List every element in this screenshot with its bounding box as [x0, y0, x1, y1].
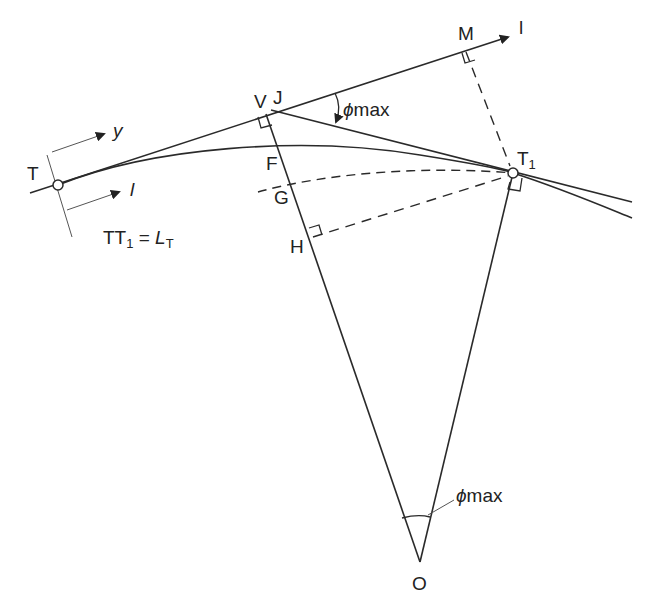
- label-m: M: [458, 23, 474, 44]
- dashed-circle-arc: [258, 170, 513, 192]
- phi-angle-arc-top: [335, 93, 339, 122]
- label-y: y: [111, 120, 124, 141]
- point-t: [53, 180, 63, 190]
- label-g: G: [274, 187, 289, 208]
- equation-tt1-equals-lt: TT1 = LT: [103, 227, 174, 251]
- label-h: H: [290, 236, 304, 257]
- y-offset-arrow: [52, 134, 104, 152]
- label-phi-max-top: ϕmax: [343, 99, 390, 120]
- y-axis-line: [47, 155, 72, 237]
- label-phi-max-bottom: ϕmax: [456, 485, 503, 506]
- transition-curve-diagram: T V J M l F G H O T1 y l ϕmax ϕmax TT1 =…: [0, 0, 655, 610]
- label-j: J: [273, 87, 283, 108]
- dashed-h-t1: [313, 176, 508, 237]
- label-f: F: [266, 153, 278, 174]
- phi-leader-line: [428, 500, 454, 515]
- tangent-at-t1: [271, 110, 632, 202]
- label-l-bottom: l: [130, 179, 135, 200]
- point-t1: [508, 168, 518, 178]
- l-offset-arrow: [67, 192, 119, 210]
- label-l-top: l: [519, 17, 523, 38]
- label-t1: T1: [517, 148, 536, 172]
- right-angle-h: [309, 225, 322, 235]
- label-o: O: [412, 573, 427, 594]
- phi-angle-arc-bottom: [402, 516, 430, 518]
- dashed-m-t1: [466, 52, 510, 166]
- radius-line-vo: [266, 114, 420, 562]
- label-v: V: [254, 91, 267, 112]
- label-t: T: [27, 163, 39, 184]
